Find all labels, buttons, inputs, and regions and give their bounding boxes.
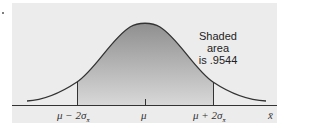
label-mu: μ [141,109,147,121]
annotation-line1: Shaded area [190,30,246,54]
annotation-line2: is .9544 [190,54,246,66]
label-mu-minus-2sigma: μ − 2σx̄ [57,109,89,124]
label-mu-plus-2sigma: μ + 2σx̄ [193,109,225,124]
x-axis-label: x̄ [268,109,273,121]
shaded-area-annotation: Shaded area is .9544 [190,30,246,66]
